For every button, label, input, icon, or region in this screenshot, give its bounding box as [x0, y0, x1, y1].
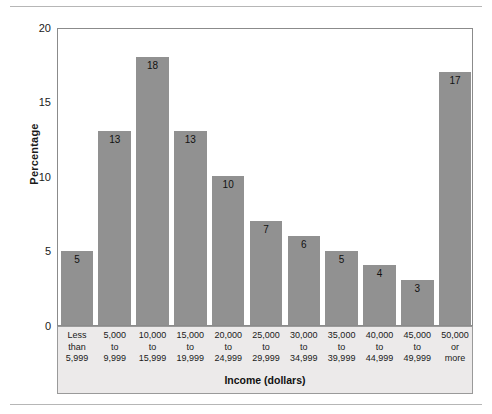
bar[interactable]: 13 — [98, 131, 131, 325]
x-axis-category-line: 34,999 — [285, 353, 323, 365]
x-axis-category-line: 5,000 — [96, 330, 134, 342]
x-axis-category-label: 35,000to39,999 — [323, 330, 361, 365]
bar-slot: 5 — [323, 29, 361, 325]
x-axis-category-label: 10,000to15,999 — [134, 330, 172, 365]
bar[interactable]: 5 — [61, 251, 94, 326]
x-axis-category-line: 9,999 — [96, 353, 134, 365]
x-axis-category-line: 19,999 — [171, 353, 209, 365]
bar-slot: 6 — [285, 29, 323, 325]
x-axis-category-label: 30,000to34,999 — [285, 330, 323, 365]
bar-slot: 7 — [247, 29, 285, 325]
bar-value-label: 5 — [61, 254, 94, 266]
x-axis-category-line: to — [398, 342, 436, 354]
bar-series: 5131813107654317 — [58, 29, 472, 325]
bar[interactable]: 10 — [212, 176, 245, 325]
bar-slot: 10 — [209, 29, 247, 325]
bar-slot: 3 — [398, 29, 436, 325]
bar[interactable]: 5 — [325, 251, 358, 326]
x-axis-category-line: 50,000 — [436, 330, 474, 342]
bar-value-label: 13 — [174, 134, 207, 146]
x-axis-category-line: 39,999 — [323, 353, 361, 365]
y-axis-tick-20: 20 — [11, 23, 51, 34]
x-axis-category-line: to — [209, 342, 247, 354]
x-axis-category-line: 15,000 — [171, 330, 209, 342]
bar-value-label: 18 — [136, 60, 169, 72]
x-axis-category-label: 25,000to29,999 — [247, 330, 285, 365]
bar[interactable]: 6 — [288, 236, 321, 325]
x-axis-category-line: 10,000 — [134, 330, 172, 342]
x-axis-category-line: 15,999 — [134, 353, 172, 365]
bar[interactable]: 4 — [363, 265, 396, 325]
bar-value-label: 6 — [288, 239, 321, 251]
x-axis-category-label: 40,000to44,999 — [361, 330, 399, 365]
y-axis-title: Percentage — [28, 94, 40, 214]
x-axis-category-line: to — [323, 342, 361, 354]
x-axis-label-band: Lessthan5,9995,000to9,99910,000to15,9991… — [57, 326, 473, 394]
x-axis-category-line: 40,000 — [361, 330, 399, 342]
x-axis-category-line: to — [96, 342, 134, 354]
bar-slot: 4 — [361, 29, 399, 325]
x-axis-category-line: Less — [58, 330, 96, 342]
x-axis-category-line: to — [247, 342, 285, 354]
bar[interactable]: 18 — [136, 57, 169, 325]
y-axis-tick-10: 10 — [11, 172, 51, 183]
x-axis-title: Income (dollars) — [58, 374, 472, 386]
bar-slot: 5 — [58, 29, 96, 325]
x-axis-category-line: 25,000 — [247, 330, 285, 342]
bar-slot: 13 — [171, 29, 209, 325]
y-axis-tick-5: 5 — [11, 246, 51, 257]
bar-slot: 18 — [134, 29, 172, 325]
x-axis-category-line: 49,999 — [398, 353, 436, 365]
bar-value-label: 17 — [439, 75, 472, 87]
x-axis-category-label: 5,000to9,999 — [96, 330, 134, 365]
x-axis-category-line: to — [134, 342, 172, 354]
x-axis-category-line: more — [436, 353, 474, 365]
bar[interactable]: 3 — [401, 280, 434, 325]
x-axis-category-line: 20,000 — [209, 330, 247, 342]
bar[interactable]: 17 — [439, 72, 472, 325]
bar-value-label: 4 — [363, 268, 396, 280]
x-axis-category-label: Lessthan5,999 — [58, 330, 96, 365]
bar-value-label: 7 — [250, 224, 283, 236]
x-axis-category-line: 29,999 — [247, 353, 285, 365]
bar-value-label: 3 — [401, 283, 434, 295]
bar[interactable]: 13 — [174, 131, 207, 325]
x-axis-category-line: 35,000 — [323, 330, 361, 342]
x-axis-category-label: 15,000to19,999 — [171, 330, 209, 365]
bar-slot: 17 — [436, 29, 474, 325]
x-axis-category-line: to — [171, 342, 209, 354]
x-axis-category-line: or — [436, 342, 474, 354]
bar-slot: 13 — [96, 29, 134, 325]
x-axis-category-line: to — [285, 342, 323, 354]
bar-chart-figure: Percentage 05101520 5131813107654317 Les… — [0, 0, 492, 414]
x-axis-category-line: to — [361, 342, 399, 354]
x-axis-category-line: 5,999 — [58, 353, 96, 365]
bar[interactable]: 7 — [250, 221, 283, 325]
x-axis-category-line: 45,000 — [398, 330, 436, 342]
plot-area: 5131813107654317 — [57, 28, 473, 326]
x-axis-category-line: 44,999 — [361, 353, 399, 365]
x-axis-category-line: 30,000 — [285, 330, 323, 342]
bar-value-label: 10 — [212, 179, 245, 191]
x-axis-category-line: than — [58, 342, 96, 354]
x-axis-category-label: 45,000to49,999 — [398, 330, 436, 365]
bar-value-label: 5 — [325, 254, 358, 266]
x-axis-category-line: 24,999 — [209, 353, 247, 365]
x-axis-category-label: 20,000to24,999 — [209, 330, 247, 365]
y-axis-tick-15: 15 — [11, 97, 51, 108]
x-axis-category-label: 50,000ormore — [436, 330, 474, 365]
y-axis-tick-0: 0 — [11, 321, 51, 332]
bar-value-label: 13 — [98, 134, 131, 146]
